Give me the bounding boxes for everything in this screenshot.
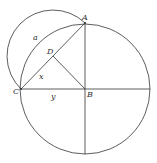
diagram-svg: A B C D a x y — [0, 0, 157, 163]
label-x: x — [39, 72, 44, 81]
geometry-diagram: A B C D a x y — [0, 0, 157, 163]
segment-DB — [53, 56, 85, 89]
label-D: D — [46, 47, 54, 56]
label-B: B — [86, 90, 93, 99]
label-y: y — [50, 92, 56, 101]
point-A-dot — [84, 22, 86, 24]
label-a: a — [33, 33, 38, 42]
label-C: C — [13, 87, 19, 96]
point-C-dot — [20, 88, 22, 90]
label-A: A — [81, 13, 88, 22]
